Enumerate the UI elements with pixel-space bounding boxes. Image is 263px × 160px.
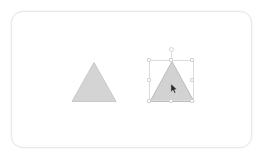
shapes-layer (0, 0, 263, 160)
mouse-pointer-icon (170, 83, 178, 94)
shape-triangle-1[interactable] (70, 60, 118, 104)
triangle-2-path[interactable] (150, 62, 194, 102)
shape-triangle-2[interactable] (148, 59, 196, 103)
cursor-arrow-shape (171, 84, 177, 94)
app-root (0, 0, 263, 160)
triangle-1-path[interactable] (72, 63, 116, 102)
